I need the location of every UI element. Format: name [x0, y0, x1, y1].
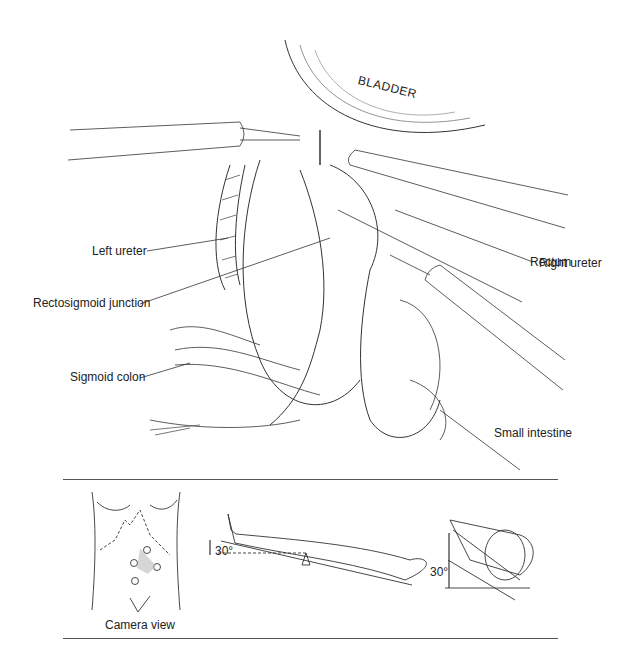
positioning-inset	[0, 0, 623, 657]
camera-view-caption: Camera view	[105, 618, 175, 632]
tilt-angle-end: 30°	[430, 565, 448, 579]
tilt-angle-side: 30°	[215, 544, 233, 558]
